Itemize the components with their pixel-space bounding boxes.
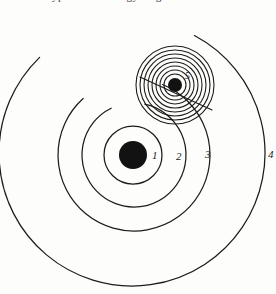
shell-label-4: 4: [268, 148, 274, 160]
shell-label-1: 1: [152, 149, 158, 161]
electron-label: 5: [185, 70, 190, 81]
nucleus-disc: [119, 141, 147, 169]
atom-diagram-figure: of the type of the energy of g 1 2 3 4 5: [0, 0, 276, 294]
atom-diagram-canvas: 1 2 3 4 5: [0, 0, 276, 294]
electron-disc: [168, 78, 182, 92]
shell-label-2: 2: [176, 150, 182, 162]
shell-label-3: 3: [204, 148, 211, 160]
